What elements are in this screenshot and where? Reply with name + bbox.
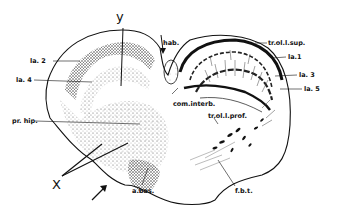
label-la1: la.1: [288, 54, 302, 61]
label-com-interb: com.interb.: [173, 101, 215, 108]
label-tr-ol-l-prof: tr.ol.l.prof.: [208, 113, 247, 120]
diagram: y hab. tr.ol.l.sup. la.1 la. 2 la. 3 la.…: [0, 0, 338, 221]
label-tr-ol-l-sup: tr.ol.l.sup.: [268, 40, 305, 47]
label-la4: la. 4: [16, 77, 32, 84]
label-la3: la. 3: [299, 72, 315, 79]
label-pr-hip: pr. hip.: [12, 118, 38, 125]
label-la5: la. 5: [304, 86, 320, 93]
brain-section-drawing: [0, 0, 338, 221]
label-x: X: [52, 178, 61, 191]
label-hab: hab.: [163, 40, 179, 47]
label-la2: la. 2: [30, 58, 46, 65]
label-y: y: [116, 10, 124, 23]
label-a-bas: a.bas.: [132, 188, 154, 195]
label-f-b-t: f.b.t.: [235, 188, 253, 195]
